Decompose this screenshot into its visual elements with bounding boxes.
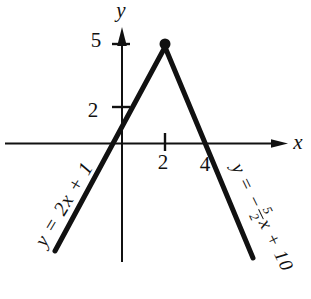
x-tick-label-4: 4 xyxy=(194,152,216,176)
y-tick-label-2: 2 xyxy=(82,98,104,122)
y-tick-label-5: 5 xyxy=(85,28,107,52)
y-axis-label: y xyxy=(110,0,132,22)
line-y-equals-2x-plus-1 xyxy=(55,47,165,251)
x-tick-label-2: 2 xyxy=(152,150,174,174)
vertex-point-dot xyxy=(160,39,171,50)
figure-linear-equations-graph: y x 5 2 2 4 y = 2x + 1 y = −52x + 10 xyxy=(0,0,311,299)
x-axis-label: x xyxy=(287,130,309,154)
x-axis-arrowhead-icon xyxy=(271,139,288,148)
